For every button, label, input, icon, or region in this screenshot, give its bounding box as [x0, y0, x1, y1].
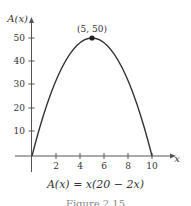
x-tick-label: 10 — [146, 161, 158, 171]
function-curve — [32, 38, 152, 156]
y-tick-label: 10 — [14, 126, 26, 136]
x-tick-label: 6 — [101, 161, 107, 171]
peak-point-label: (5, 50) — [77, 24, 107, 34]
function-caption: A(x) = x(20 − 2x) — [0, 178, 191, 191]
y-tick-label: 20 — [14, 103, 26, 113]
y-axis-arrow-icon — [29, 17, 34, 23]
x-axis-label: x — [174, 153, 180, 164]
figure-caption: Figure 2.15 — [0, 198, 191, 206]
y-tick-label: 50 — [14, 33, 26, 43]
x-tick-label: 4 — [77, 161, 83, 171]
y-tick-label: 40 — [14, 56, 26, 66]
x-tick-label: 8 — [125, 161, 131, 171]
peak-point-marker — [89, 35, 94, 40]
chart-canvas: 2 4 6 8 10 x 10 20 30 40 50 A(x) (5, 50) — [0, 0, 191, 206]
x-tick-label: 2 — [53, 161, 59, 171]
y-tick-label: 30 — [14, 79, 26, 89]
y-axis-label: A(x) — [6, 13, 28, 24]
